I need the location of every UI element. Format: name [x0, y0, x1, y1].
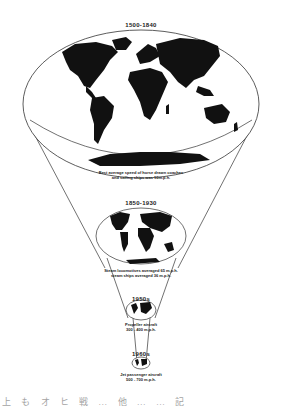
era-label-1850-1930: 1850-1930: [120, 200, 162, 206]
world-map-1960s: [132, 357, 150, 369]
caption-1500-1840: Best average speed of horse drawn coache…: [81, 170, 201, 180]
footer-garbled-text: 上 も オ ヒ 戦 … 他 … … 記: [2, 395, 188, 408]
caption-line: 500 - 700 m.p.h.: [114, 377, 168, 382]
caption-line: 300 - 400 m.p.h.: [116, 327, 166, 332]
caption-1850-1930: Steam locomotives averaged 65 m.p.h. ste…: [96, 268, 186, 278]
era-label-1960s: 1960s: [128, 351, 154, 357]
world-map-1850-1930: [96, 208, 186, 264]
world-map-1500-1840: [23, 30, 259, 178]
era-label-1950s: 1950s: [128, 296, 154, 302]
caption-1950s: Propeller aircraft 300 - 400 m.p.h.: [116, 322, 166, 332]
caption-line: and sailing ships was 10m.p.h.: [81, 175, 201, 180]
caption-line: steam ships averaged 36 m.p.h.: [96, 273, 186, 278]
era-label-1500-1840: 1500-1840: [118, 22, 164, 28]
caption-1960s: Jet passenger aircraft 500 - 700 m.p.h.: [114, 372, 168, 382]
world-map-1950s: [126, 300, 156, 320]
